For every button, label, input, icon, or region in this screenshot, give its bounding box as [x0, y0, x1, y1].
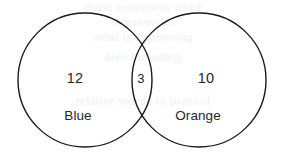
venn-count-intersection: 3 [137, 72, 144, 85]
venn-diagram-figure: most commonly used in essential what is … [0, 0, 286, 163]
venn-set-label-right: Orange [175, 109, 221, 123]
venn-count-right: 10 [198, 71, 214, 86]
venn-count-left: 12 [67, 71, 83, 86]
venn-set-label-left: Blue [64, 109, 91, 123]
